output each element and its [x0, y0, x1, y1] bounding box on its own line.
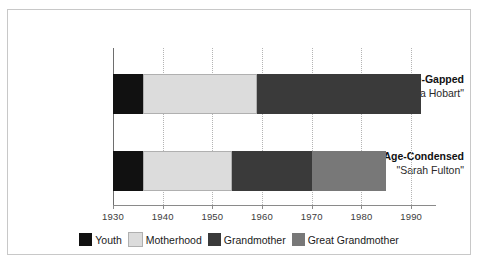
chart-legend: YouthMotherhoodGrandmotherGreat Grandmot… [8, 232, 470, 247]
bar-segment[interactable] [312, 151, 387, 191]
tick-1960 [262, 205, 263, 209]
tick-label-1930: 1930 [93, 211, 133, 222]
legend-label: Youth [95, 234, 121, 246]
legend-item[interactable]: Youth [76, 233, 124, 246]
tick-label-1990: 1990 [391, 211, 431, 222]
legend-swatch-icon [208, 233, 221, 246]
bar-segment[interactable] [143, 151, 232, 191]
bar-segment[interactable] [113, 151, 143, 191]
tick-1970 [312, 205, 313, 209]
tick-label-1980: 1980 [341, 211, 381, 222]
tick-1990 [411, 205, 412, 209]
bar-segment[interactable] [257, 74, 421, 114]
legend-label: Great Grandmother [308, 234, 399, 246]
bar-segment[interactable] [143, 74, 257, 114]
tick-label-1970: 1970 [292, 211, 332, 222]
tick-label-1940: 1940 [143, 211, 183, 222]
tick-1930 [113, 205, 114, 209]
bar-segment[interactable] [113, 74, 143, 114]
plot-area: 1930194019501960197019801990 [106, 48, 436, 206]
legend-swatch-icon [128, 232, 143, 247]
tick-label-1950: 1950 [192, 211, 232, 222]
bar-segment[interactable] [232, 151, 312, 191]
legend-label: Motherhood [146, 234, 202, 246]
x-axis-line [113, 205, 436, 206]
legend-swatch-icon [79, 233, 92, 246]
bar-row[interactable] [106, 74, 436, 114]
legend-swatch-icon [292, 233, 305, 246]
tick-1980 [361, 205, 362, 209]
legend-item[interactable]: Grandmother [205, 233, 289, 246]
bar-row[interactable] [106, 151, 436, 191]
chart-frame: Age-Gapped "Brenda Hobart" Age-Condensed… [7, 9, 471, 255]
legend-item[interactable]: Motherhood [125, 232, 205, 247]
tick-label-1960: 1960 [242, 211, 282, 222]
legend-item[interactable]: Great Grandmother [289, 233, 402, 246]
legend-label: Grandmother [224, 234, 286, 246]
tick-1950 [212, 205, 213, 209]
tick-1940 [163, 205, 164, 209]
